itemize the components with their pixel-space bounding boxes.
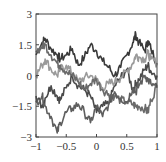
x-tick-label: −0.5 [56,140,76,152]
y-tick-label: 0 [27,70,33,82]
x-tick-label: 1 [154,140,160,152]
series-lines [36,32,157,133]
series-line-1 [36,32,157,77]
x-tick-label: 0.5 [120,140,134,152]
x-tick-label: −1 [30,140,42,152]
x-tick-label: 0 [94,140,100,152]
y-axis: 31.50−1.5−3 [12,8,39,143]
y-tick-label: −1.5 [12,100,32,112]
y-tick-label: 3 [27,8,33,20]
line-chart: 31.50−1.5−3 −1−0.500.51 [0,0,166,162]
y-tick-label: 1.5 [18,39,32,51]
